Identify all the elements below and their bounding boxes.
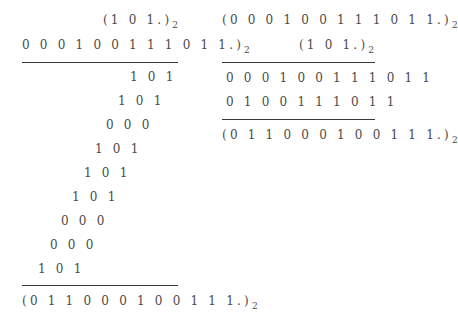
base-subscript: 2 xyxy=(452,135,458,145)
left-result: (0 1 1 0 0 0 1 0 0 1 1 1.)2 xyxy=(22,294,258,309)
partial-product-row: 1 0 1 xyxy=(130,70,177,84)
partial-product-row: 1 0 1 xyxy=(84,166,131,180)
right-top-rule xyxy=(222,62,375,63)
partial-product-row: 1 0 1 xyxy=(118,94,165,108)
left-bottom-rule xyxy=(22,285,178,286)
left-multiplier-value: (1 0 1.) xyxy=(103,13,172,27)
partial-product-row: 0 0 0 xyxy=(106,118,153,132)
base-subscript: 2 xyxy=(172,20,178,30)
partial-product-row: 1 0 1 xyxy=(95,142,142,156)
base-subscript: 2 xyxy=(368,45,374,55)
left-multiplicand: 0 0 0 1 0 0 1 1 1 0 1 1.)2 xyxy=(22,38,250,53)
partial-product-row: 1 0 1 xyxy=(72,190,119,204)
partial-product-row: 0 1 0 0 1 1 1 0 1 1 xyxy=(226,95,397,109)
left-top-rule xyxy=(22,62,178,63)
partial-product-row: 0 0 0 1 0 0 1 1 1 0 1 1 xyxy=(226,71,433,85)
partial-product-row: 0 0 0 xyxy=(50,238,97,252)
right-multiplicand-value: (0 0 0 1 0 0 1 1 1 0 1 1.) xyxy=(222,13,452,27)
base-subscript: 2 xyxy=(244,45,250,55)
base-subscript: 2 xyxy=(452,20,458,30)
right-result: (0 1 1 0 0 0 1 0 0 1 1 1.)2 xyxy=(222,128,458,143)
right-bottom-rule xyxy=(222,119,375,120)
right-result-value: (0 1 1 0 0 0 1 0 0 1 1 1.) xyxy=(222,128,452,142)
right-multiplier: (1 0 1.)2 xyxy=(299,38,374,53)
base-subscript: 2 xyxy=(252,301,258,311)
left-result-value: (0 1 1 0 0 0 1 0 0 1 1 1.) xyxy=(22,294,252,308)
right-multiplier-value: (1 0 1.) xyxy=(299,38,368,52)
left-multiplicand-value: 0 0 0 1 0 0 1 1 1 0 1 1.) xyxy=(22,38,244,52)
left-multiplier: (1 0 1.)2 xyxy=(103,13,178,28)
right-multiplicand: (0 0 0 1 0 0 1 1 1 0 1 1.)2 xyxy=(222,13,458,28)
partial-product-row: 1 0 1 xyxy=(38,262,85,276)
partial-product-row: 0 0 0 xyxy=(61,214,108,228)
